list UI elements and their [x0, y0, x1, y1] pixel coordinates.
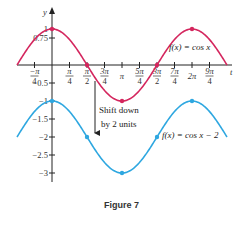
- x-tick-label: 7π: [170, 66, 179, 76]
- x-tick-label-den: 2: [85, 76, 89, 86]
- x-tick-label-den: 4: [102, 76, 107, 86]
- x-tick-label-den: 4: [207, 76, 212, 86]
- x-tick-label: π: [120, 71, 125, 81]
- x-tick-label-den: 4: [67, 76, 72, 86]
- cos-curve-label: f(x) = cos x: [169, 42, 210, 52]
- data-point: [155, 63, 159, 67]
- y-tick-label: −0.5: [33, 78, 48, 88]
- x-tick-label: 5π: [135, 66, 144, 76]
- figure-caption: Figure 7: [104, 200, 139, 210]
- data-point: [85, 63, 89, 67]
- axes: [17, 7, 232, 182]
- y-tick-label: −2.5: [33, 150, 48, 160]
- x-tick-label-den: 4: [137, 76, 142, 86]
- x-tick-label: −π: [29, 66, 40, 76]
- data-point: [155, 135, 159, 139]
- data-point: [120, 171, 124, 175]
- x-tick-label-den: 2: [155, 76, 159, 86]
- y-tick-label: −3: [39, 168, 48, 178]
- x-tick-label: 9π: [205, 66, 214, 76]
- chart-canvas: −π4π4π23π4π5π43π27π42π9π4 10.75−0.5−1−1.…: [0, 0, 242, 233]
- shifted-curve-label: f(x) = cos x − 2: [162, 130, 219, 140]
- data-point: [190, 99, 194, 103]
- data-point: [50, 99, 54, 103]
- shift-label-line2: by 2 units: [101, 119, 137, 129]
- y-axis-arrow-icon: [49, 7, 55, 14]
- x-axis-label: t: [230, 67, 233, 77]
- x-tick-label: π: [67, 66, 72, 76]
- x-ticks: −π4π4π23π4π5π43π27π42π9π4: [29, 62, 214, 86]
- data-point: [50, 27, 54, 31]
- shift-label-line1: Shift down: [99, 105, 139, 115]
- x-tick-label: 3π: [99, 66, 109, 76]
- x-tick-label: 2π: [188, 71, 197, 81]
- x-tick-label-den: 4: [172, 76, 177, 86]
- y-tick-label: −2: [39, 132, 48, 142]
- data-point: [120, 99, 124, 103]
- data-point: [190, 27, 194, 31]
- data-point: [85, 135, 89, 139]
- y-axis-label: y: [42, 7, 47, 17]
- y-tick-label: −1.5: [33, 114, 48, 124]
